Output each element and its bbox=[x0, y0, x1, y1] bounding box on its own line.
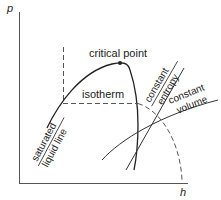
critical-point-label: critical point bbox=[89, 47, 147, 59]
critical-point-marker bbox=[118, 61, 122, 65]
x-axis-label: h bbox=[180, 186, 186, 198]
y-axis-label: p bbox=[6, 2, 13, 14]
isotherm-label: isotherm bbox=[82, 88, 124, 100]
ph-diagram: p h critical point isotherm saturated li… bbox=[0, 0, 221, 200]
isotherm-arc bbox=[138, 104, 182, 181]
saturation-dome bbox=[47, 63, 138, 170]
constant-volume-line bbox=[102, 100, 218, 160]
